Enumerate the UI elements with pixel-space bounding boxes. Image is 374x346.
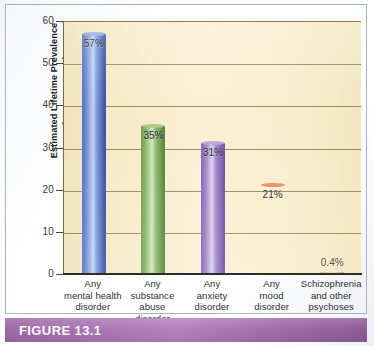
bar-top-cap-3	[261, 183, 285, 187]
y-tick-label-50: 50	[10, 57, 54, 68]
y-tick-label-30: 30	[10, 142, 54, 153]
x-axis-label-1-line-1: substance	[119, 290, 187, 302]
bar-value-label-2: 31%	[203, 147, 223, 158]
figure-root: 0102030405060 Estimated Lifetime Prevale…	[0, 0, 374, 346]
y-tick-label-40: 40	[10, 99, 54, 110]
x-axis-baseline	[63, 273, 362, 275]
bar-0: 57%	[82, 34, 106, 274]
y-tick-label-wrap-0: 0	[6, 268, 54, 279]
bar-2: 31%	[201, 143, 225, 274]
bar-value-label-0: 57%	[84, 38, 104, 49]
x-axis-label-3-line-1: mood	[238, 290, 306, 302]
y-tick-20	[56, 190, 63, 191]
bar-3: 21%	[261, 185, 285, 274]
x-axis-label-3-line-0: Any	[238, 278, 306, 290]
y-tick-label-wrap-20: 20	[6, 184, 54, 195]
y-tick-label-wrap-40: 40	[6, 99, 54, 110]
x-axis-label-3: Anymooddisorder	[238, 278, 306, 313]
x-axis-label-2-line-0: Any	[178, 278, 246, 290]
y-tick-label-10: 10	[10, 226, 54, 237]
y-tick-label-60: 60	[10, 15, 54, 26]
bar-value-label-4: 0.4%	[321, 257, 344, 268]
y-tick-label-wrap-30: 30	[6, 142, 54, 153]
figure-caption-band: FIGURE 13.1	[5, 318, 367, 342]
x-axis-label-0-line-2: disorder	[59, 301, 127, 313]
bar-top-cap-1	[141, 124, 165, 128]
y-tick-0	[56, 274, 63, 275]
gridline-50	[64, 64, 361, 65]
plot-area: 57%35%31%21%0.4%	[63, 21, 361, 274]
y-tick-label-wrap-60: 60	[6, 15, 54, 26]
x-axis-label-0-line-1: mental health	[59, 290, 127, 302]
x-axis-label-4: Schizophreniaand otherpsychoses	[297, 278, 365, 313]
x-axis-label-2: Anyanxietydisorder	[178, 278, 246, 313]
x-axis-label-4-line-2: psychoses	[297, 301, 365, 313]
y-tick-label-wrap-50: 50	[6, 57, 54, 68]
bar-1: 35%	[141, 126, 165, 274]
x-axis-label-4-line-1: and other	[297, 290, 365, 302]
x-axis-label-2-line-1: anxiety	[178, 290, 246, 302]
y-tick-label-20: 20	[10, 184, 54, 195]
bar-value-label-3: 21%	[263, 189, 283, 200]
chart-panel: 0102030405060 Estimated Lifetime Prevale…	[5, 4, 367, 314]
y-tick-label-wrap-10: 10	[6, 226, 54, 237]
y-tick-10	[56, 232, 63, 233]
x-axis-label-1-line-0: Any	[119, 278, 187, 290]
x-axis-label-2-line-2: disorder	[178, 301, 246, 313]
x-axis-label-0-line-0: Any	[59, 278, 127, 290]
y-axis-title-line-1: Estimated Lifetime Prevalence	[49, 0, 61, 189]
x-axis-label-1-line-2: abuse	[119, 301, 187, 313]
x-axis-label-4-line-0: Schizophrenia	[297, 278, 365, 290]
x-axis-label-3-line-2: disorder	[238, 301, 306, 313]
bar-top-cap-2	[201, 141, 225, 145]
figure-caption-label: FIGURE 13.1	[19, 323, 101, 338]
x-axis-label-0: Anymental healthdisorder	[59, 278, 127, 313]
y-tick-label-0: 0	[10, 268, 54, 279]
bar-value-label-1: 35%	[143, 130, 163, 141]
gridline-40	[64, 106, 361, 107]
bar-top-cap-0	[82, 32, 106, 36]
